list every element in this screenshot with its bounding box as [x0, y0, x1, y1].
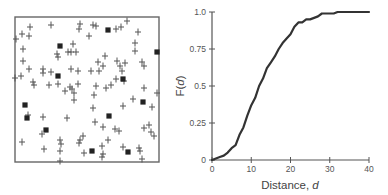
cross-marker	[108, 82, 114, 89]
cross-marker	[103, 85, 109, 92]
point-pattern-panel	[12, 17, 160, 165]
cross-marker	[93, 23, 99, 30]
square-marker	[89, 148, 94, 153]
cdf-line	[212, 12, 369, 160]
cross-marker	[46, 82, 52, 89]
cross-marker	[70, 41, 76, 48]
cross-marker	[20, 58, 26, 65]
cross-marker	[26, 33, 32, 40]
square-marker	[125, 149, 130, 154]
cross-marker	[18, 73, 24, 80]
cross-marker	[93, 83, 99, 90]
cross-marker	[41, 146, 47, 153]
cross-marker	[48, 22, 54, 29]
cross-marker	[148, 129, 154, 136]
y-tick-label: 0.5	[194, 81, 206, 91]
cross-marker	[122, 60, 128, 67]
cross-marker	[91, 92, 97, 99]
cross-marker	[77, 21, 83, 28]
cross-marker	[71, 97, 77, 104]
square-marker	[106, 113, 111, 118]
y-tick-label: 0.75	[189, 44, 206, 54]
cross-marker	[96, 68, 102, 75]
cross-marker	[55, 54, 61, 61]
cross-marker	[135, 29, 141, 36]
cross-marker	[30, 79, 36, 86]
cross-marker	[75, 81, 81, 88]
x-tick-label: 30	[325, 164, 335, 174]
x-tick-label: 10	[247, 164, 257, 174]
cross-marker	[146, 122, 152, 129]
cross-marker	[132, 40, 138, 47]
cross-marker	[100, 124, 106, 131]
cross-marker	[48, 69, 54, 76]
square-marker	[22, 102, 27, 107]
cross-marker	[120, 103, 126, 110]
cross-marker	[57, 137, 63, 144]
square-marker	[24, 115, 29, 120]
cross-marker	[90, 22, 96, 29]
cross-marker	[40, 70, 46, 77]
cross-marker	[132, 48, 138, 55]
plot-frame	[15, 17, 159, 162]
cross-marker	[136, 145, 142, 152]
cross-marker	[40, 114, 46, 121]
cross-marker	[75, 68, 81, 75]
cross-marker	[19, 31, 25, 38]
y-axis: 00.250.50.751.0	[189, 7, 215, 165]
cross-marker	[90, 105, 96, 112]
cross-marker	[19, 139, 25, 146]
cross-marker	[76, 26, 82, 33]
cross-marker	[20, 46, 26, 53]
cross-marker	[105, 137, 111, 144]
square-marker	[57, 43, 62, 48]
cross-marker	[13, 36, 19, 43]
cross-marker	[95, 59, 101, 66]
cross-marker	[100, 151, 106, 158]
cross-marker	[76, 140, 82, 147]
x-tick-label: 40	[364, 164, 374, 174]
cross-marker	[99, 154, 105, 161]
cross-marker	[149, 104, 155, 111]
cross-marker	[88, 68, 94, 75]
y-axis-title: F(d)	[174, 75, 186, 96]
x-tick-label: 0	[210, 164, 215, 174]
cross-marker	[100, 63, 106, 70]
x-axis-title: Distance, d	[261, 179, 319, 191]
cross-marker	[62, 88, 68, 95]
cross-marker	[26, 66, 32, 73]
y-tick-label: 0.25	[189, 118, 206, 128]
cross-marker	[68, 66, 74, 73]
cross-marker	[73, 49, 79, 56]
cross-marker	[77, 137, 83, 144]
x-tick-label: 20	[286, 164, 296, 174]
cross-marker	[80, 133, 86, 140]
cross-marker	[31, 82, 37, 89]
square-marker	[154, 49, 159, 54]
figure: 00.250.50.751.0 010203040 F(d) Distance,…	[0, 0, 388, 195]
cross-marker	[57, 148, 63, 155]
square-marker	[140, 99, 145, 104]
square-marker	[43, 127, 48, 132]
cross-marker	[55, 81, 61, 88]
square-markers	[22, 27, 159, 154]
cdf-chart-panel: 00.250.50.751.0 010203040 F(d) Distance,…	[174, 7, 374, 191]
cross-marker	[130, 96, 136, 103]
x-axis: 010203040	[210, 157, 374, 174]
cross-markers	[12, 18, 160, 165]
cross-marker	[114, 58, 120, 65]
cross-marker	[86, 33, 92, 40]
cross-marker	[141, 125, 147, 132]
cross-marker	[113, 76, 119, 83]
square-marker	[55, 73, 60, 78]
cross-marker	[102, 53, 108, 60]
cross-marker	[120, 144, 126, 151]
cross-marker	[124, 18, 130, 25]
cross-marker	[92, 119, 98, 126]
cross-marker	[81, 150, 87, 157]
cross-marker	[141, 85, 147, 92]
cross-marker	[64, 115, 70, 122]
cross-marker	[57, 158, 63, 165]
cross-marker	[27, 24, 33, 31]
cross-marker	[54, 51, 60, 58]
